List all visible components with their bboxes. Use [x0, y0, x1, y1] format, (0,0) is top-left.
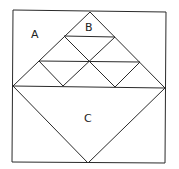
- quilt-diagram: A B C: [0, 0, 179, 169]
- diag-1: [39, 61, 63, 86]
- horizontal-midline: [13, 86, 165, 88]
- label-c: C: [84, 112, 92, 125]
- row-line-1: [64, 36, 115, 37]
- label-b: B: [85, 21, 93, 34]
- label-a: A: [31, 28, 39, 41]
- diag-4: [115, 62, 140, 87]
